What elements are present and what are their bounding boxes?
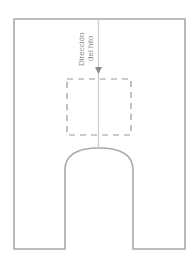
grain-label-line1: Dirección [77,33,86,66]
pattern-outline [14,19,185,249]
grain-label-line2: del hilo [86,35,95,61]
pattern-svg: Dirección del hilo [0,0,196,263]
grain-label: Dirección del hilo [77,33,95,66]
pattern-diagram: Dirección del hilo [0,0,196,263]
grain-arrow-icon [95,67,102,74]
